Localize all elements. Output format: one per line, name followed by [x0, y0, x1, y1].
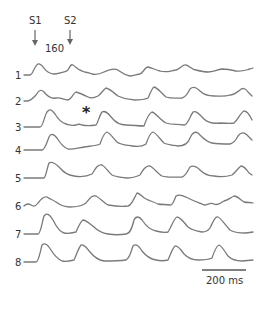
trace-label-8: 8 — [15, 257, 21, 268]
trace-8 — [24, 244, 253, 262]
arrow-down-icon-s2 — [67, 30, 73, 45]
interval-label: 160 — [45, 43, 64, 54]
asterisk-marker: * — [82, 103, 91, 122]
scale-bar-label: 200 ms — [206, 275, 243, 286]
arrow-down-icon-s1 — [32, 30, 38, 46]
stimulus-label-s1: S1 — [29, 15, 42, 26]
recording-figure: S1 S2 160 * 1 2 3 4 5 6 7 8 200 ms — [0, 0, 280, 309]
trace-label-7: 7 — [15, 229, 21, 240]
trace-label-6: 6 — [15, 201, 21, 212]
trace-7 — [24, 214, 253, 235]
trace-label-3: 3 — [15, 122, 21, 133]
trace-label-5: 5 — [15, 173, 21, 184]
trace-1 — [24, 64, 253, 76]
trace-label-2: 2 — [15, 96, 21, 107]
trace-label-4: 4 — [15, 145, 21, 156]
trace-label-1: 1 — [15, 70, 21, 81]
trace-6 — [24, 193, 253, 207]
trace-5 — [24, 162, 252, 178]
trace-3 — [24, 110, 252, 127]
stimulus-label-s2: S2 — [64, 15, 77, 26]
trace-4 — [24, 132, 252, 150]
trace-2 — [24, 87, 252, 101]
